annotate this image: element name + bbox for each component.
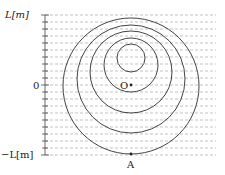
point-o-label: O <box>120 80 128 91</box>
axis-top-label: L[m] <box>4 9 29 20</box>
point-a-dot <box>130 153 133 156</box>
axis-zero-label: 0 <box>33 80 39 91</box>
vertical-axis <box>41 15 49 155</box>
axis-bottom-label: −L[m] <box>1 149 33 160</box>
point-a-label: A <box>126 159 135 170</box>
wavefront-circle-1 <box>117 44 145 72</box>
point-o-dot <box>130 84 133 87</box>
wavefront-circle-4 <box>77 25 185 133</box>
wave-circles-diagram: L[m] 0 −L[m] O A <box>0 0 225 175</box>
